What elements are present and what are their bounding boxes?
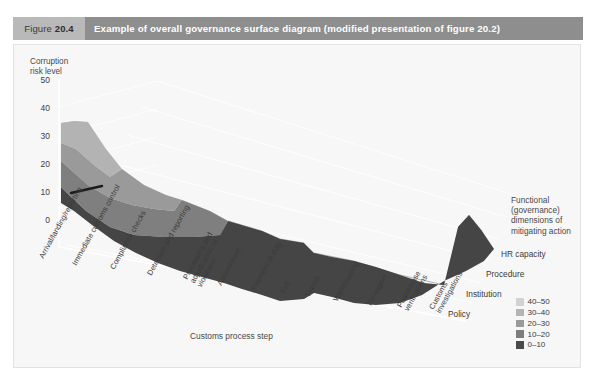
legend-item-0-10: 0–10 <box>516 340 550 350</box>
legend-swatch-40-50 <box>516 298 524 306</box>
figure-container: Figure20.4 Example of overall governance… <box>0 0 596 386</box>
legend-item-40-50: 40–50 <box>516 297 550 307</box>
legend-swatch-0-10 <box>516 341 524 349</box>
figure-number-prefix: Figure <box>24 23 52 34</box>
z-label-policy: Policy <box>448 309 470 319</box>
z-axis-title: Functional (governance) dimensions of mi… <box>511 195 571 236</box>
surface-plot <box>14 45 580 367</box>
chart-panel: Corruption risk level 50 40 30 20 10 0 A… <box>13 44 581 368</box>
legend-swatch-30-40 <box>516 309 524 317</box>
legend-swatch-10-20 <box>516 330 524 338</box>
y-tick-0: 0 <box>28 215 50 225</box>
y-tick-20: 20 <box>28 159 50 169</box>
legend-item-20-30: 20–30 <box>516 319 550 329</box>
figure-title-bar: Figure20.4 Example of overall governance… <box>13 17 583 40</box>
y-tick-50: 50 <box>28 75 50 85</box>
legend-label-30-40: 30–40 <box>528 308 550 317</box>
figure-title-text: Example of overall governance surface di… <box>85 17 583 40</box>
z-label-procedure: Procedure <box>486 269 524 279</box>
y-axis-title: Corruption risk level <box>30 57 68 77</box>
legend-label-0-10: 0–10 <box>528 340 546 349</box>
legend-item-30-40: 30–40 <box>516 308 550 318</box>
legend-label-40-50: 40–50 <box>528 297 550 306</box>
y-tick-10: 10 <box>28 187 50 197</box>
legend-swatch-20-30 <box>516 320 524 328</box>
legend-label-10-20: 10–20 <box>528 330 550 339</box>
legend-item-10-20: 10–20 <box>516 329 550 339</box>
legend-label-20-30: 20–30 <box>528 319 550 328</box>
y-tick-30: 30 <box>28 131 50 141</box>
z-label-hr-capacity: HR capacity <box>501 249 546 259</box>
z-label-institution: Institution <box>466 289 502 299</box>
legend: 40–50 30–40 20–30 10–20 0–10 <box>516 297 550 351</box>
y-tick-40: 40 <box>28 103 50 113</box>
figure-number-box: Figure20.4 <box>13 17 85 40</box>
figure-number-value: 20.4 <box>55 23 74 34</box>
x-axis-title: Customs process step <box>190 331 273 341</box>
